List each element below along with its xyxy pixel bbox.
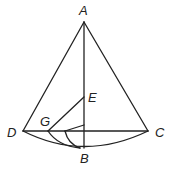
segment-AC	[84, 22, 148, 131]
segment-AD	[23, 22, 84, 131]
segment-GE	[48, 97, 84, 131]
segment-small	[65, 125, 84, 131]
label-E: E	[88, 91, 97, 104]
label-D: D	[7, 126, 16, 139]
arc-DCB	[23, 131, 148, 147]
label-B: B	[80, 152, 89, 165]
label-A: A	[79, 4, 88, 17]
label-G: G	[40, 115, 50, 128]
label-C: C	[155, 126, 164, 139]
geometry-figure	[0, 0, 173, 169]
